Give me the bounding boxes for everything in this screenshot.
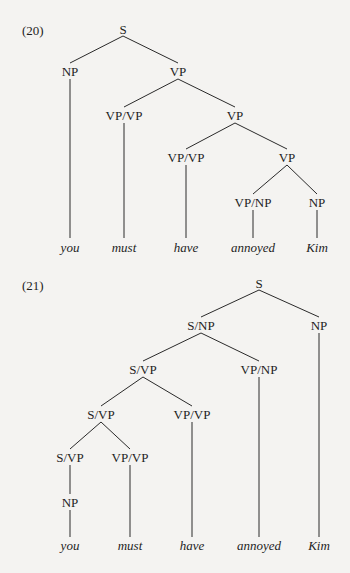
leaf-word: must	[118, 539, 143, 552]
node-np: NP	[62, 496, 79, 509]
node-vp: VP	[279, 151, 296, 164]
node-vp: VP	[170, 65, 187, 78]
node-vp: VP	[227, 109, 244, 122]
node-s-np: S/NP	[187, 319, 214, 332]
node-s: S	[255, 277, 262, 290]
node-s: S	[119, 23, 126, 36]
leaf-word: must	[112, 241, 137, 254]
node-np: NP	[309, 196, 326, 209]
leaf-word: have	[180, 539, 205, 552]
node-vp-vp: VP/VP	[106, 109, 143, 122]
leaf-word: you	[61, 241, 80, 254]
node-vp-np: VP/NP	[235, 196, 272, 209]
leaf-word: Kim	[306, 241, 328, 254]
leaf-word: annoyed	[237, 539, 281, 552]
node-np: NP	[62, 65, 79, 78]
node-s-vp: S/VP	[56, 451, 83, 464]
node-np: NP	[311, 319, 328, 332]
node-vp-vp: VP/VP	[112, 451, 149, 464]
tree-branches	[0, 0, 350, 573]
node-vp-np: VP/NP	[241, 363, 278, 376]
leaf-word: annoyed	[231, 241, 275, 254]
node-s-vp: S/VP	[87, 408, 114, 421]
node-vp-vp: VP/VP	[174, 408, 211, 421]
leaf-word: Kim	[308, 539, 330, 552]
leaf-word: you	[61, 539, 80, 552]
example-number-20: (20)	[22, 24, 44, 37]
leaf-word: have	[174, 241, 199, 254]
example-number-21: (21)	[22, 279, 44, 292]
node-vp-vp: VP/VP	[168, 151, 205, 164]
node-s-vp: S/VP	[129, 363, 156, 376]
